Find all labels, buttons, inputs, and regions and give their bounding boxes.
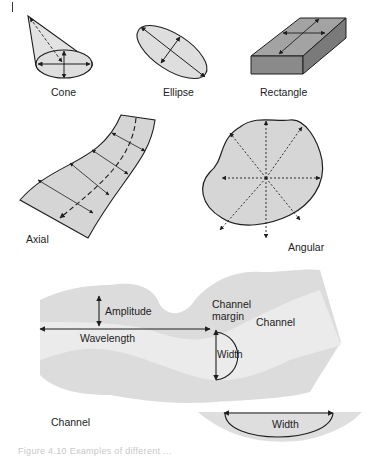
label-ellipse: Ellipse [163,86,194,98]
label-width-section: Width [272,418,299,430]
rectangle-shape [251,18,346,74]
label-axial: Axial [26,233,49,245]
figure-caption: Figure 4.10 Examples of different ... [18,446,172,456]
cone-shape [28,16,92,78]
label-angular: Angular [288,241,324,253]
label-rectangle: Rectangle [260,86,307,98]
label-amplitude: Amplitude [105,305,152,317]
label-channel-section: Channel [51,416,90,428]
label-width-plan: Width [217,349,243,361]
label-channel-margin-1: Channel [212,298,251,310]
angular-shape [203,120,323,238]
label-channel-margin-2: margin [212,310,244,322]
label-wavelength: Wavelength [80,332,135,344]
axial-shape [20,115,155,238]
ellipse-shape [129,15,216,89]
label-cone: Cone [51,86,76,98]
label-channel-right: Channel [256,316,295,328]
